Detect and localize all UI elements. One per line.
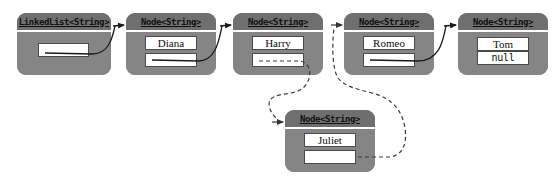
link-arrow-tom [444, 25, 456, 26]
node-tom-title-bar: Node<String> [458, 13, 548, 32]
linked-list-title-bar: LinkedList<String> [17, 13, 111, 32]
node-diana-type-label: Node<String> [141, 17, 201, 27]
linked-list-diagram: LinkedList<String> Node<String> Diana No… [0, 0, 557, 177]
node-diana-body: Diana [126, 32, 216, 75]
node-harry: Node<String> Harry [233, 13, 323, 75]
linked-list-head-field [38, 43, 89, 57]
node-juliet-body: Juliet [285, 129, 375, 172]
node-harry-type-label: Node<String> [248, 17, 308, 27]
node-romeo-title-bar: Node<String> [344, 13, 434, 32]
node-juliet-data-field: Juliet [304, 133, 356, 147]
node-romeo-body: Romeo [344, 32, 434, 75]
node-tom-type-label: Node<String> [473, 17, 533, 27]
node-tom-next-field: null [477, 51, 529, 65]
node-romeo-next-field [363, 53, 415, 67]
node-diana: Node<String> Diana [126, 13, 216, 75]
node-harry-title-bar: Node<String> [233, 13, 323, 32]
link-arrow-diana [113, 25, 124, 26]
node-diana-next-field [145, 53, 197, 67]
node-romeo: Node<String> Romeo [344, 13, 434, 75]
node-harry-body: Harry [233, 32, 323, 75]
node-romeo-type-label: Node<String> [359, 17, 419, 27]
node-tom-body: Tom null [458, 32, 548, 75]
linked-list-body [17, 32, 111, 75]
node-romeo-data-field: Romeo [363, 36, 415, 50]
node-harry-next-field [252, 53, 304, 67]
node-juliet: Node<String> Juliet [285, 110, 375, 172]
node-juliet-title-bar: Node<String> [285, 110, 375, 129]
node-juliet-next-field [304, 150, 356, 164]
linked-list-type-label: LinkedList<String> [19, 17, 109, 27]
node-tom-data-field: Tom [477, 37, 529, 51]
node-harry-data-field: Harry [252, 36, 304, 50]
node-diana-title-bar: Node<String> [126, 13, 216, 32]
node-diana-data-field: Diana [145, 36, 197, 50]
node-juliet-type-label: Node<String> [300, 114, 360, 124]
node-tom: Node<String> Tom null [458, 13, 548, 75]
linked-list-object: LinkedList<String> [17, 13, 111, 75]
link-arrow-harry [220, 25, 231, 26]
